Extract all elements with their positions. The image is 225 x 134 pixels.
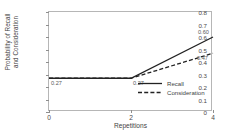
y-axis-title: Probability of Recall and Consideration xyxy=(4,0,26,94)
data-series-group xyxy=(49,12,213,112)
y-axis-title-line1: Probability of Recall xyxy=(4,0,12,94)
legend-item-consideration: Consideration xyxy=(138,88,205,97)
data-point-label: 0.27 xyxy=(51,80,62,86)
series-line-consideration xyxy=(49,53,213,78)
y-axis-title-line2: and Consideration xyxy=(12,0,20,94)
legend-item-recall: Recall xyxy=(138,79,205,88)
x-tick-label: 2 xyxy=(129,114,133,121)
chart-figure: Probability of Recall and Consideration … xyxy=(0,0,225,134)
x-axis-title: Repetitions xyxy=(48,122,213,129)
data-point-label: 0.60 xyxy=(198,29,209,35)
legend-label: Recall xyxy=(167,80,184,87)
x-tick-label: 0 xyxy=(47,114,51,121)
series-line-recall xyxy=(49,37,213,78)
data-point-label: 0.47 xyxy=(197,55,208,61)
plot-area: 00.10.20.30.40.50.60.70.8 024 0.270.270.… xyxy=(48,11,212,111)
legend-line-swatch xyxy=(138,89,162,96)
legend-line-swatch xyxy=(138,80,162,87)
x-tick-mark xyxy=(213,110,214,113)
legend-label: Consideration xyxy=(167,89,205,96)
x-tick-label: 4 xyxy=(211,114,215,121)
chart-legend: RecallConsideration xyxy=(138,79,205,97)
plot-inner: 00.10.20.30.40.50.60.70.8 024 0.270.270.… xyxy=(49,12,211,110)
